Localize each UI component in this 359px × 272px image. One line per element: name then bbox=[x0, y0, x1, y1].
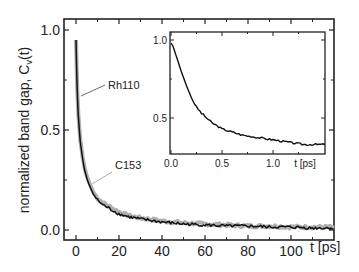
x-tick-label: 100 bbox=[279, 243, 303, 259]
chart: 0204060801000.00.51.0 normalized band ga… bbox=[0, 0, 359, 272]
inset-y-tick-label: 0.5 bbox=[153, 113, 167, 124]
inset-x-tick-label: 0.5 bbox=[215, 158, 229, 169]
annotation-rh110: Rh110 bbox=[108, 79, 140, 91]
c153-arrow bbox=[92, 172, 112, 184]
y-tick-label: 0.0 bbox=[41, 222, 61, 238]
y-tick-label: 0.5 bbox=[41, 122, 61, 138]
x-tick-label: 80 bbox=[240, 243, 256, 259]
inset-y-tick-label: 1.0 bbox=[153, 35, 167, 46]
x-axis-label: t [ps] bbox=[310, 239, 340, 255]
x-tick-label: 0 bbox=[72, 243, 80, 259]
y-axis-label: normalized band gap, Cv(t) bbox=[16, 47, 34, 213]
inset-x-tick-label: 1.0 bbox=[266, 158, 280, 169]
annotation-c153: C153 bbox=[115, 159, 141, 171]
y-tick-label: 1.0 bbox=[41, 22, 61, 38]
inset-x-axis-label: t [ps] bbox=[294, 158, 316, 169]
rh110-arrow bbox=[81, 85, 105, 96]
inset-x-tick-label: 0.0 bbox=[164, 158, 178, 169]
x-tick-label: 20 bbox=[111, 243, 127, 259]
x-tick-label: 40 bbox=[154, 243, 170, 259]
x-tick-label: 60 bbox=[197, 243, 213, 259]
